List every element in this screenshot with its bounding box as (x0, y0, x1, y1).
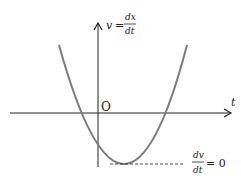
svg-text:dx: dx (125, 12, 136, 22)
svg-text:dt: dt (193, 165, 203, 175)
svg-text:v: v (106, 19, 113, 32)
acceleration-zero-label: dv dt = 0 (192, 150, 226, 175)
svg-text:= 0: = 0 (206, 157, 226, 170)
svg-text:=: = (115, 19, 124, 32)
svg-text:dt: dt (125, 26, 135, 36)
velocity-curve (59, 45, 187, 164)
svg-text:dv: dv (193, 150, 204, 160)
origin-label: O (101, 100, 111, 114)
t-axis-label: t (231, 96, 236, 109)
v-axis-label: v = dx dt (106, 12, 136, 36)
velocity-time-diagram: O t v = dx dt dv dt = 0 (0, 0, 241, 189)
